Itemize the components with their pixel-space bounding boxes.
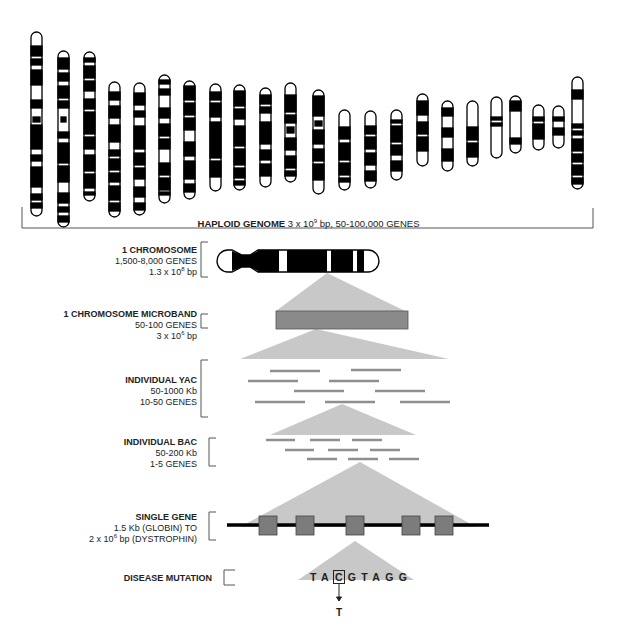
haploid-genome-label: HAPLOID GENOME 3 x 109 bp, 50-100,000 GE… bbox=[0, 218, 617, 229]
level-label-microband: 1 CHROMOSOME MICROBAND 50-100 GENES 3 x … bbox=[63, 309, 197, 342]
single-chromosome bbox=[217, 250, 379, 272]
chromosome-6 bbox=[159, 75, 170, 203]
chromosome-13 bbox=[339, 110, 350, 190]
chromosome-4 bbox=[109, 82, 120, 217]
level-label-disease-mutation: DISEASE MUTATION bbox=[124, 573, 212, 584]
level-label-single-gene: SINGLE GENE 1.5 Kb (GLOBIN) TO 2 x 106 b… bbox=[89, 512, 197, 545]
chromosome-3 bbox=[84, 52, 95, 201]
chromosome-12 bbox=[313, 90, 324, 194]
exon-1 bbox=[259, 516, 277, 535]
chromosome-21 bbox=[533, 105, 544, 150]
exon-2 bbox=[296, 516, 314, 535]
karyotype bbox=[31, 32, 583, 227]
chromosome-9 bbox=[234, 85, 245, 190]
chromosome-20 bbox=[510, 96, 521, 153]
chromosome-x bbox=[572, 77, 583, 189]
level-label-yac: INDIVIDUAL YAC 50-1000 Kb 10-50 GENES bbox=[125, 375, 197, 408]
substituted-base: T bbox=[336, 607, 342, 618]
chromosome-18 bbox=[467, 101, 478, 166]
chromosome-5 bbox=[134, 83, 145, 215]
level-brackets bbox=[201, 242, 235, 585]
chromosome-17 bbox=[442, 101, 453, 171]
bac-clones bbox=[266, 440, 419, 459]
level-label-bac: INDIVIDUAL BAC 50-200 Kb 1-5 GENES bbox=[124, 437, 197, 470]
chromosome-10 bbox=[260, 88, 271, 187]
exon-5 bbox=[435, 516, 453, 535]
chromosome-8 bbox=[210, 84, 221, 191]
chromosome-22 bbox=[553, 106, 564, 148]
gene-structure bbox=[227, 516, 489, 535]
chromosome-16 bbox=[417, 94, 428, 166]
yac-clones bbox=[248, 370, 450, 402]
chromosome-15 bbox=[391, 110, 402, 180]
mutation-arrow bbox=[337, 583, 342, 601]
microband-bar bbox=[276, 311, 408, 329]
chromosome-2 bbox=[58, 51, 69, 227]
mutated-base: C bbox=[334, 571, 344, 583]
level-label-chromosome: 1 CHROMOSOME 1,500-8,000 GENES 1.3 x 108… bbox=[115, 245, 197, 278]
chromosome-14 bbox=[365, 111, 376, 188]
exon-4 bbox=[402, 516, 420, 535]
chromosome-7 bbox=[184, 81, 195, 199]
exon-3 bbox=[346, 516, 364, 535]
chromosome-1 bbox=[31, 32, 42, 216]
dna-sequence: TACGTAGG bbox=[310, 571, 412, 583]
chromosome-19 bbox=[491, 97, 502, 158]
chromosome-11 bbox=[285, 83, 296, 182]
